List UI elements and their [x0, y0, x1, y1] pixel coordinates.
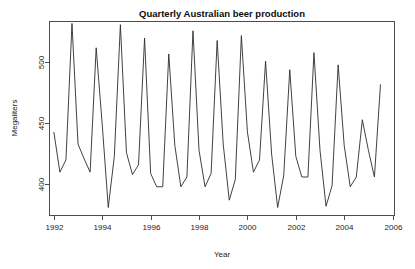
y-axis-title: Megaliters	[10, 100, 19, 137]
x-tick-label: 2000	[239, 223, 257, 232]
chart-figure: Quarterly Australian beer production 400…	[0, 0, 415, 269]
y-tick-label: 400	[37, 177, 46, 191]
y-tick-label: 450	[37, 116, 46, 130]
chart-title: Quarterly Australian beer production	[139, 8, 305, 19]
x-tick-label: 1994	[94, 223, 112, 232]
x-tick-label: 1992	[46, 223, 64, 232]
x-tick-label: 1996	[143, 223, 161, 232]
x-axis-title: Year	[214, 250, 231, 259]
beer-production-line-chart: Quarterly Australian beer production 400…	[0, 0, 415, 269]
x-tick-label: 2002	[288, 223, 306, 232]
x-tick-label: 1998	[191, 223, 209, 232]
y-tick-label: 500	[37, 55, 46, 69]
x-tick-label: 2004	[336, 223, 354, 232]
x-tick-label: 2006	[385, 223, 403, 232]
